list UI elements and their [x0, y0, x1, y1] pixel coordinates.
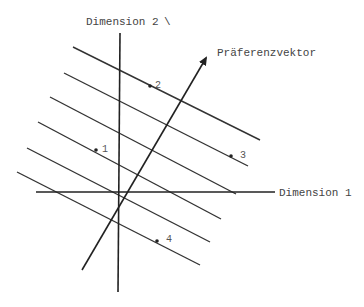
y-axis-label-tick: \ — [164, 16, 171, 28]
point-marker — [155, 239, 159, 243]
point-marker — [148, 84, 152, 88]
point-label: 3 — [240, 150, 246, 161]
diagram-canvas: Dimension 2 \ Dimension 1 Präferenzvekto… — [0, 0, 364, 307]
point-label: 1 — [102, 144, 108, 155]
iso-line-4 — [38, 122, 221, 219]
point-label: 4 — [166, 234, 172, 245]
iso-line-6 — [17, 172, 200, 265]
vector-label: Präferenzvektor — [217, 47, 316, 59]
point-label: 2 — [155, 80, 161, 91]
x-axis-label: Dimension 1 — [279, 187, 352, 199]
point-marker — [94, 148, 98, 152]
point-3: 3 — [229, 150, 246, 161]
point-2: 2 — [148, 80, 161, 91]
point-marker — [229, 154, 233, 158]
iso-preference-lines — [17, 47, 260, 265]
y-axis — [118, 33, 120, 292]
y-axis-label: Dimension 2 — [86, 16, 159, 28]
preference-vector — [82, 58, 206, 270]
